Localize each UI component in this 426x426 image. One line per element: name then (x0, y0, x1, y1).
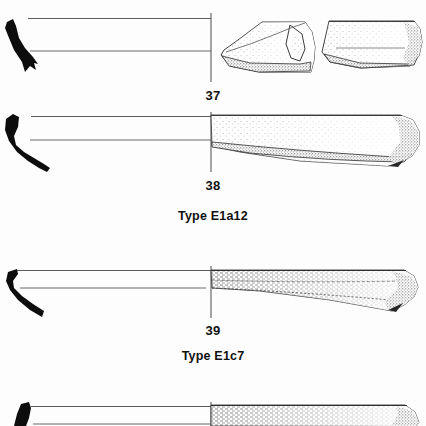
figure-39-rim-profile (6, 269, 44, 317)
type-label-e1c7: Type E1c7 (0, 349, 426, 363)
figure-37-rim-profile (5, 19, 38, 72)
figure-number-38: 38 (0, 178, 426, 193)
figure-38-drawing (5, 112, 419, 172)
figure-bottom-rim-profile (14, 402, 31, 426)
figure-39-drawing (6, 266, 418, 318)
figure-38-rim-profile (5, 114, 50, 172)
figure-bottom-body-fade (211, 405, 419, 426)
type-label-e1a12: Type E1a12 (0, 209, 426, 223)
figure-37-drawing (5, 13, 422, 82)
pottery-profile-plate: 37 38 Type E1a12 39 Type E1c7 (0, 0, 426, 426)
figure-bottom-partial-drawing (14, 402, 419, 426)
figure-number-37: 37 (0, 88, 426, 103)
figure-number-39: 39 (0, 323, 426, 338)
